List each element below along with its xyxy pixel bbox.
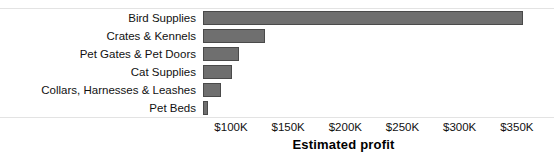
- x-axis-tick-labels: $100K $150K $200K $250K $300K $350K: [0, 119, 554, 135]
- bar-row: [203, 81, 554, 99]
- plot-frame-bottom-rule: [0, 117, 554, 118]
- category-label-cat-supplies: Cat Supplies: [131, 63, 196, 81]
- x-tick-label-150k: $150K: [272, 119, 305, 135]
- category-axis-labels: Bird Supplies Crates & Kennels Pet Gates…: [0, 9, 200, 117]
- bar-bird-supplies[interactable]: [203, 11, 523, 25]
- bar-row: [203, 99, 554, 117]
- category-label-pet-gates-and-pet-doors: Pet Gates & Pet Doors: [80, 45, 196, 63]
- category-label-bird-supplies: Bird Supplies: [128, 9, 196, 27]
- category-label-pet-beds: Pet Beds: [149, 99, 196, 117]
- x-axis-title-text: Estimated profit: [292, 137, 394, 152]
- bar-row: [203, 63, 554, 81]
- bar-row: [203, 9, 554, 27]
- category-label-crates-and-kennels: Crates & Kennels: [107, 27, 197, 45]
- x-tick-label-350k: $350K: [500, 119, 533, 135]
- plot-area: [203, 9, 554, 117]
- category-label-collars-harnesses-and-leashes: Collars, Harnesses & Leashes: [41, 81, 196, 99]
- bar-pet-gates-and-pet-doors[interactable]: [203, 47, 239, 61]
- x-tick-label-250k: $250K: [386, 119, 419, 135]
- bar-cat-supplies[interactable]: [203, 65, 232, 79]
- x-tick-label-100k: $100K: [214, 119, 247, 135]
- bar-chart: Bird Supplies Crates & Kennels Pet Gates…: [0, 0, 554, 159]
- bar-row: [203, 27, 554, 45]
- bar-crates-and-kennels[interactable]: [203, 29, 265, 43]
- x-tick-label-300k: $300K: [443, 119, 476, 135]
- x-axis-title: Estimated profit: [0, 137, 554, 152]
- bar-collars-harnesses-and-leashes[interactable]: [203, 83, 221, 97]
- bar-pet-beds[interactable]: [203, 101, 208, 115]
- bar-row: [203, 45, 554, 63]
- x-tick-label-200k: $200K: [329, 119, 362, 135]
